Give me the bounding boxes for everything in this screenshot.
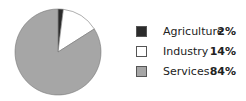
- legend-label: Services: [163, 64, 209, 79]
- legend-item-agriculture: Agriculture 2%: [136, 24, 246, 44]
- legend-value: 84%: [210, 64, 236, 79]
- services-swatch: [136, 66, 147, 77]
- legend-value: 14%: [210, 44, 236, 59]
- legend-item-industry: Industry 14%: [136, 44, 246, 64]
- legend-item-services: Services 84%: [136, 64, 246, 84]
- legend-label: Agriculture: [163, 24, 224, 39]
- legend-label: Industry: [163, 44, 208, 59]
- agriculture-swatch: [136, 26, 147, 37]
- industry-swatch: [136, 46, 147, 57]
- legend-value: 2%: [217, 24, 236, 39]
- legend: Agriculture 2% Industry 14% Services 84%: [136, 24, 246, 84]
- pie-chart: [0, 0, 120, 101]
